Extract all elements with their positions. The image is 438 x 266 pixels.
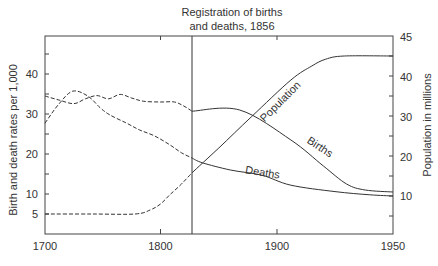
y-right-tick-10: 10 xyxy=(400,190,412,202)
y-right-tick-45: 45 xyxy=(400,31,412,43)
y-left-axis-label: Birth and death rates per 1,000 xyxy=(7,64,19,216)
x-tick-1800: 1800 xyxy=(148,240,172,252)
y-right-tick-40: 40 xyxy=(400,71,412,83)
y-right-tick-30: 30 xyxy=(400,111,412,123)
y-left-tick-20: 20 xyxy=(26,148,38,160)
annotation-line2: and deaths, 1856 xyxy=(189,20,274,32)
deaths-series-label: Deaths xyxy=(244,163,281,180)
y-left-tick-5: 5 xyxy=(32,208,38,220)
deaths-dashed-line xyxy=(45,91,192,158)
demographic-chart: Registration of births and deaths, 1856 … xyxy=(0,0,438,266)
deaths-solid-line xyxy=(192,158,393,196)
series-layer xyxy=(45,56,393,215)
x-tick-1900: 1900 xyxy=(265,240,289,252)
x-tick-1950: 1950 xyxy=(381,240,405,252)
births-dashed-line xyxy=(45,94,192,111)
y-left-tick-30: 30 xyxy=(26,108,38,120)
x-tick-labels: 1700 1800 1900 1950 xyxy=(33,240,405,252)
y-right-tick-labels: 45 40 30 20 10 xyxy=(400,31,412,202)
y-left-tick-10: 10 xyxy=(26,188,38,200)
plot-frame xyxy=(45,36,393,234)
y-left-tick-labels: 40 30 20 10 5 xyxy=(26,68,38,220)
y-right-tick-20: 20 xyxy=(400,151,412,163)
y-left-ticks xyxy=(45,54,49,214)
population-dashed-line xyxy=(45,173,192,215)
y-left-tick-40: 40 xyxy=(26,68,38,80)
births-series-label: Births xyxy=(305,134,336,160)
annotation-line1: Registration of births xyxy=(182,6,283,18)
population-series-label: Population xyxy=(258,79,303,124)
x-ticks xyxy=(161,36,278,234)
y-right-axis-label: Population in millions xyxy=(421,73,433,177)
births-solid-line xyxy=(192,108,393,192)
x-tick-1700: 1700 xyxy=(33,240,57,252)
population-solid-line xyxy=(192,56,393,173)
